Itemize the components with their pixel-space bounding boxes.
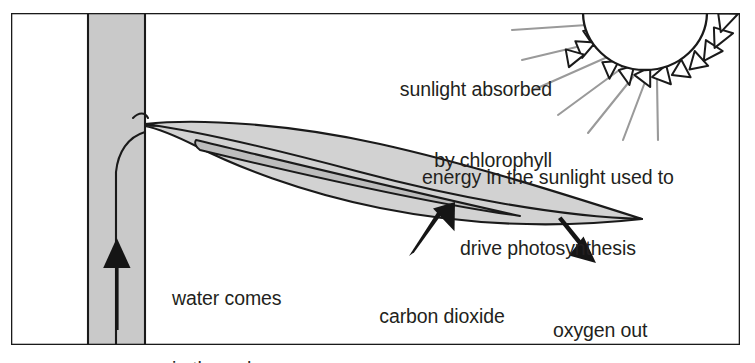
label-sunlight-line1: sunlight absorbed <box>352 78 552 102</box>
label-co2-line1: carbon dioxide <box>352 305 532 329</box>
label-energy-line1: energy in the sunlight used to <box>398 166 698 190</box>
photosynthesis-diagram: sunlight absorbed by chlorophyll energy … <box>0 0 755 363</box>
label-oxygen-out: oxygen out <box>553 272 647 363</box>
label-water-line1: water comes <box>172 287 286 311</box>
label-water-line2: in through <box>172 358 286 363</box>
label-energy-line2: drive photosynthesis <box>398 237 698 261</box>
label-water-uptake: water comes in through root hair cells <box>172 240 286 363</box>
label-oxygen-line1: oxygen out <box>553 319 647 343</box>
label-carbon-dioxide: carbon dioxide comes in from the air <box>352 258 532 363</box>
